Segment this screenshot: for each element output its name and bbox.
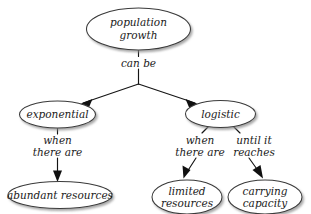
node-logistic-label: logistic [201, 108, 240, 120]
link-label-exponential-when-line2: there are [33, 146, 82, 158]
link-label-logistic-until-line1: until it [236, 134, 272, 146]
concept-map-canvas: can be when there are when there are unt… [0, 0, 311, 214]
arrowhead-to-carrying-capacity [253, 165, 264, 179]
node-limited-resources-label-line2: resources [161, 197, 214, 209]
node-abundant-resources[interactable]: abundant resources [7, 182, 114, 209]
link-label-can-be-line1: can be [121, 57, 156, 69]
node-carrying-capacity[interactable]: carrying capacity [228, 180, 302, 214]
node-logistic[interactable]: logistic [186, 101, 256, 128]
node-population-growth-label-line2: growth [119, 29, 157, 41]
link-label-can-be: can be [121, 57, 156, 69]
link-label-logistic-when-line1: when [186, 134, 215, 146]
link-label-logistic-until: until it reaches [233, 134, 275, 159]
concept-map-diagram: can be when there are when there are unt… [0, 0, 311, 214]
link-label-exponential-when-line1: when [43, 134, 72, 146]
node-population-growth-label-line1: population [110, 16, 167, 28]
node-carrying-capacity-label-line2: capacity [243, 197, 289, 209]
link-label-logistic-when: when there are [175, 134, 224, 159]
arrowhead-to-abundant-resources [53, 171, 62, 183]
node-abundant-resources-label: abundant resources [7, 189, 114, 201]
node-carrying-capacity-label-line1: carrying [243, 185, 288, 197]
node-limited-resources[interactable]: limited resources [152, 180, 222, 214]
link-label-logistic-when-line2: there are [175, 146, 224, 158]
node-exponential[interactable]: exponential [20, 101, 96, 128]
link-label-exponential-when: when there are [33, 134, 82, 159]
node-exponential-label: exponential [26, 108, 88, 120]
link-label-logistic-until-line2: reaches [233, 146, 275, 158]
node-limited-resources-label-line1: limited [168, 185, 205, 197]
node-population-growth[interactable]: population growth [87, 8, 191, 50]
